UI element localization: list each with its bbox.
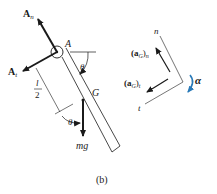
force-arrow-at [23, 52, 57, 71]
label-axis-n: n [154, 26, 159, 36]
label-pin-a: A [64, 38, 72, 49]
figure-caption: (b) [96, 174, 108, 186]
label-theta-top: θ [80, 62, 85, 72]
label-g: G [92, 87, 99, 98]
label-half-denominator: 2 [35, 90, 40, 100]
label-accel-t: (aG)t [124, 78, 141, 89]
label-alpha: α [195, 74, 202, 86]
label-axis-t: t [138, 103, 141, 113]
label-accel-n: (aG)n [131, 48, 149, 59]
accel-arrow-t [147, 79, 168, 92]
dimension-tick [55, 104, 73, 114]
force-arrow-an [38, 19, 57, 52]
label-theta-bottom: θ [68, 117, 73, 127]
dimension-line [36, 68, 60, 112]
free-body-diagram: An At A θ l 2 θ G mg n t (aG)n (aG)t α (… [0, 0, 217, 194]
nt-axes [145, 36, 183, 104]
label-at: At [8, 66, 18, 79]
label-half-numerator: l [36, 78, 39, 88]
rod [62, 48, 120, 152]
label-mg: mg [76, 140, 88, 151]
label-an: An [23, 8, 34, 21]
alpha-arrow [188, 75, 193, 92]
